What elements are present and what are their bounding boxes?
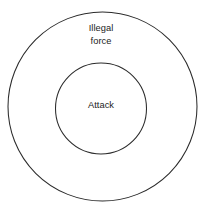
concentric-circle-diagram: Illegal force Attack bbox=[0, 0, 206, 211]
inner-circle-label: Attack bbox=[41, 99, 161, 112]
outer-circle-label: Illegal force bbox=[41, 22, 161, 47]
